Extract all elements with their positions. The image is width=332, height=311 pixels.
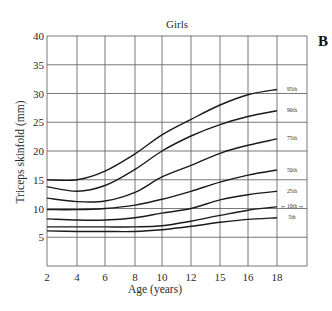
- x-tick-label: 6: [102, 271, 108, 283]
- x-tick-label: 15: [215, 271, 227, 283]
- x-axis-title: Age (years): [128, 283, 182, 296]
- percentile-label-5th: 5th: [288, 214, 295, 220]
- chart-title: Girls: [166, 18, 188, 30]
- percentile-labels: 95th90th75th50th25th10th5th: [281, 86, 303, 220]
- x-tick-label: 18: [272, 271, 284, 283]
- panel-letter: B: [318, 33, 328, 49]
- y-axis-title: Triceps skinfold (mm): [14, 100, 27, 203]
- chart-canvas: Girls B 510152025303540 24681012151618 9…: [0, 0, 332, 311]
- y-tick-label: 15: [33, 174, 45, 186]
- x-tick-label: 2: [44, 271, 50, 283]
- x-axis-ticks: 24681012151618: [44, 271, 283, 283]
- percentile-label-95th: 95th: [287, 86, 297, 92]
- y-tick-label: 40: [33, 30, 45, 42]
- x-tick-label: 8: [132, 271, 138, 283]
- y-axis-ticks: 510152025303540: [33, 30, 45, 243]
- y-tick-label: 5: [39, 231, 45, 243]
- skinfold-chart: Girls B 510152025303540 24681012151618 9…: [0, 0, 332, 311]
- percentile-label-50th: 50th: [287, 167, 297, 173]
- x-tick-label: 12: [186, 271, 197, 283]
- y-tick-label: 25: [33, 116, 45, 128]
- percentile-label-10th: 10th: [287, 203, 297, 209]
- y-tick-label: 35: [33, 59, 45, 71]
- y-tick-label: 10: [33, 203, 45, 215]
- x-tick-label: 10: [157, 271, 169, 283]
- percentile-label-75th: 75th: [287, 135, 297, 141]
- x-tick-label: 4: [74, 271, 80, 283]
- x-tick-label: 16: [243, 271, 255, 283]
- y-tick-label: 20: [33, 145, 45, 157]
- percentile-label-90th: 90th: [287, 107, 297, 113]
- percentile-label-25th: 25th: [287, 188, 297, 194]
- y-tick-label: 30: [33, 88, 45, 100]
